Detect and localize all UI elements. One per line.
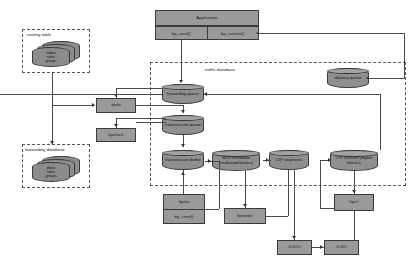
- edge-fq-ipnfw-h: [116, 88, 162, 89]
- arrow-seg-in: [266, 158, 269, 162]
- edge-left-spine: [52, 105, 53, 144]
- arrow-tq-tb: [181, 144, 185, 147]
- arrow-ipnfw-tq: [181, 110, 185, 113]
- transmission-buffer-cylinder[interactable]: transmission buffer: [162, 150, 204, 170]
- edge-delivery-in: [369, 78, 405, 79]
- arrow-seg-lso: [292, 236, 296, 239]
- edge-bpclo-sdu-h: [205, 209, 219, 210]
- edge-ipnfw-tq-h: [136, 105, 183, 106]
- edge-routing-ipnfw-v: [52, 73, 53, 106]
- routing-table-label: routing table: [27, 32, 51, 37]
- ltpmeter-box[interactable]: ltpmeter: [224, 208, 266, 224]
- edge-delivery-bpreceive-h: [259, 33, 405, 34]
- forwarding-database-disk-stack: plans rules groups: [32, 156, 82, 184]
- arrow-bpsend-forwarding: [179, 80, 183, 83]
- traffic-database-label: traffic database: [205, 67, 235, 72]
- routing-table-disk-stack: tables rules groups: [32, 41, 82, 69]
- arrow-sdu-ltpmeter: [243, 204, 247, 207]
- transmission-queue-cylinder[interactable]: transmission queue: [162, 115, 204, 135]
- ltpcli-box[interactable]: ltpcli: [334, 194, 374, 211]
- arrow-sdu-in: [208, 159, 211, 163]
- edge-lsi-ltpcli: [354, 211, 355, 240]
- bpclock-box[interactable]: bpclock: [96, 128, 136, 142]
- arrow-bpreceive-in: [256, 31, 259, 35]
- delivery-queue-cylinder[interactable]: delivery queue: [327, 68, 369, 88]
- edge-fq-bus-right: [204, 94, 380, 95]
- edge-seg-lso: [294, 170, 295, 240]
- arrow-bpclock-in: [114, 124, 118, 127]
- edge-fq-bus-left: [0, 94, 162, 95]
- edge-bpclock-up-h: [116, 118, 166, 119]
- edge-ltpmeter-seg-h: [266, 216, 288, 217]
- edge-bpclo-sdu-v: [219, 161, 220, 209]
- arrow-lso-lsi: [320, 245, 323, 249]
- lsi-box[interactable]: <LSI>: [324, 240, 359, 255]
- arrow-tb-bpclo-up: [181, 172, 185, 175]
- diagram-canvas: routing table tables rules groups forwar…: [0, 0, 415, 274]
- bpclo-box[interactable]: bpclo bp_send(): [163, 194, 205, 224]
- disk-front: tables rules groups: [32, 47, 70, 67]
- arrow-routing-ipnfw: [92, 103, 95, 107]
- edge-session-in-v: [320, 160, 321, 208]
- forwarding-queue-cylinder[interactable]: forwarding queue: [162, 84, 204, 104]
- ipnfw-box[interactable]: ipnfw: [96, 98, 136, 113]
- ltp-segments-cylinder[interactable]: LTP segments: [269, 150, 309, 170]
- edge-bpsend-forwarding: [181, 40, 182, 82]
- ltp-session-cylinder[interactable]: LTP session (import blocks): [330, 150, 378, 171]
- edge-bpclock-tq: [136, 122, 166, 123]
- edge-fq-bus-down: [380, 94, 381, 150]
- edge-session-ltpcli-h: [320, 208, 334, 209]
- bp-send-api[interactable]: bp_send(): [156, 27, 207, 39]
- lso-box[interactable]: <LSO>: [277, 240, 312, 255]
- bpclo-label: bpclo: [164, 195, 204, 209]
- edge-routing-ipnfw-h: [52, 105, 94, 106]
- fdb-disk-label-2: groups: [46, 174, 57, 178]
- fdb-disk-front: plans rules groups: [32, 162, 70, 182]
- application-api-row: bp_send() bp_receive(): [155, 26, 259, 40]
- forwarding-database-label: forwarding database: [25, 147, 65, 152]
- bpclo-api-label: bp_send(): [164, 209, 204, 224]
- edge-ltpmeter-seg-v: [288, 170, 289, 216]
- arrow-left-spine-down: [50, 141, 54, 144]
- edge-sdu-ltpmeter: [245, 171, 246, 208]
- arrow-session-in: [328, 158, 331, 162]
- routing-disk-label-2: groups: [46, 59, 57, 63]
- arrow-ltpcli-in: [352, 190, 356, 193]
- edge-delivery-bpreceive-v: [404, 33, 405, 78]
- bp-receive-api[interactable]: bp_receive(): [207, 27, 259, 39]
- arrow-delivery-in: [366, 76, 369, 80]
- arrow-fq-bus-in: [204, 92, 207, 96]
- application-box[interactable]: Application: [155, 10, 259, 26]
